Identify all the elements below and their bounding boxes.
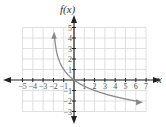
svg-text:7: 7 — [144, 82, 148, 91]
tick-labels: −5−4−3−2−11234567−3−2−112345 — [18, 24, 148, 117]
svg-text:−3: −3 — [39, 82, 48, 91]
svg-text:−2: −2 — [63, 97, 72, 106]
svg-text:4: 4 — [113, 82, 117, 91]
svg-text:4: 4 — [68, 34, 72, 43]
svg-text:6: 6 — [134, 82, 138, 91]
svg-text:5: 5 — [68, 24, 72, 33]
y-axis-label: f(x) — [60, 3, 76, 16]
svg-text:−2: −2 — [49, 82, 58, 91]
x-axis-label: x — [156, 73, 162, 85]
svg-text:−4: −4 — [29, 82, 38, 91]
svg-text:3: 3 — [68, 45, 72, 54]
svg-text:−5: −5 — [18, 82, 27, 91]
svg-text:3: 3 — [103, 82, 107, 91]
svg-text:1: 1 — [68, 66, 72, 75]
svg-text:2: 2 — [68, 55, 72, 64]
function-graph: −5−4−3−2−11234567−3−2−112345 f(x) x — [0, 0, 166, 127]
svg-text:−1: −1 — [63, 87, 72, 96]
svg-text:−3: −3 — [63, 108, 72, 117]
svg-text:5: 5 — [124, 82, 128, 91]
